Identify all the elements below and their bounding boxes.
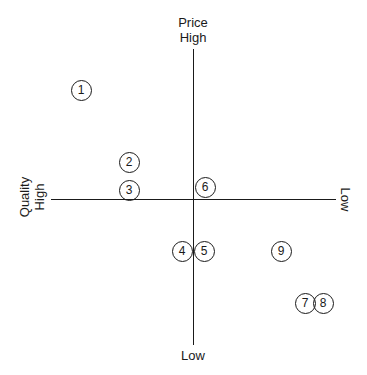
quality-high-text: High — [32, 167, 47, 227]
marker-9: 9 — [271, 241, 292, 262]
quality-low-label: Low — [338, 170, 353, 230]
marker-8: 8 — [313, 293, 334, 314]
marker-2: 2 — [119, 152, 140, 173]
price-title: Price — [163, 15, 223, 30]
marker-5: 5 — [194, 241, 215, 262]
price-high-text: High — [163, 30, 223, 45]
quality-title: Quality — [17, 167, 32, 227]
price-axis-line — [193, 49, 194, 345]
price-low-label: Low — [163, 348, 223, 363]
marker-3: 3 — [119, 180, 140, 201]
quality-high-label: Quality High — [17, 167, 47, 227]
marker-1: 1 — [71, 80, 92, 101]
marker-6: 6 — [195, 177, 216, 198]
marker-4: 4 — [172, 241, 193, 262]
price-high-label: Price High — [163, 15, 223, 45]
